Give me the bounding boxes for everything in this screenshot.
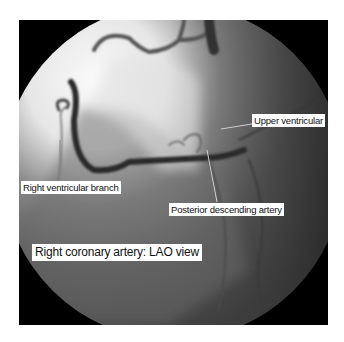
label-upper-ventricular: Upper ventricular <box>252 114 325 127</box>
figure-caption: Right coronary artery: LAO view <box>32 244 202 261</box>
angiogram-graphic <box>19 20 328 325</box>
angiogram-image: Upper ventricular Right ventricular bran… <box>19 20 328 325</box>
label-right-ventricular-branch: Right ventricular branch <box>21 181 121 194</box>
label-posterior-descending-artery: Posterior descending artery <box>169 203 284 216</box>
